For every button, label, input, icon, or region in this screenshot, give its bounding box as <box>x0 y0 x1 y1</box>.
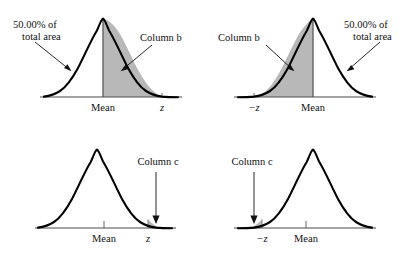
column-label: Column c <box>137 156 178 167</box>
mean-label: Mean <box>91 102 116 113</box>
column-label: Column b <box>140 32 182 43</box>
panel-bottom-right: Column c −z Mean <box>208 130 416 260</box>
area-label-line1: 50.00% of <box>344 19 388 30</box>
mean-label: Mean <box>301 102 326 113</box>
area-label-line2: total area <box>353 31 392 42</box>
area-arrowhead <box>64 64 72 71</box>
z-label: z <box>159 102 164 113</box>
panel-top-right: Column b 50.00% of total area −z Mean <box>208 0 416 130</box>
z-label: z <box>145 233 150 244</box>
panel-bottom-left: Column c Mean z <box>0 130 208 260</box>
area-leader-line <box>35 42 70 70</box>
mean-label: Mean <box>92 233 117 244</box>
area-label-line1: 50.00% of <box>13 19 57 30</box>
normal-curve-figure: 50.00% of total area Column b Mean z Col… <box>0 0 416 260</box>
area-label-line2: total area <box>22 31 61 42</box>
neg-z-label: −z <box>256 233 267 244</box>
column-label: Column c <box>231 156 272 167</box>
neg-z-label: −z <box>248 102 259 113</box>
shaded-area-column-b <box>103 19 162 98</box>
column-label: Column b <box>218 32 260 43</box>
area-leader-line <box>348 42 380 70</box>
panel-top-left: 50.00% of total area Column b Mean z <box>0 0 208 130</box>
mean-label: Mean <box>294 233 319 244</box>
column-arrowhead <box>152 216 159 224</box>
shaded-area-column-b <box>254 19 313 98</box>
column-arrowhead <box>250 216 257 224</box>
